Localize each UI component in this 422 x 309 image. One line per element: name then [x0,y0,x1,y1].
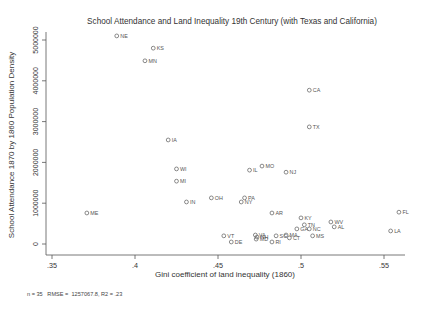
data-point-mn: MN [143,58,157,64]
point-label: IL [253,167,257,173]
marker-circle-icon [185,200,189,204]
marker-circle-icon [307,88,311,92]
point-label: AL [338,224,345,230]
point-label: NY [245,199,253,205]
marker-circle-icon [222,234,226,238]
data-point-tx: TX [307,124,320,130]
y-axis: 010000002000000300000040000005000000 [32,26,46,255]
data-point-ar: AR [270,210,283,216]
x-tick-label: .55 [379,261,389,270]
marker-circle-icon [143,59,147,63]
point-label: MN [148,58,156,64]
point-label: MS [316,233,324,239]
y-tick-label: 1000000 [32,189,39,216]
x-tick-label: .35 [47,261,57,270]
data-point-ks: KS [151,45,164,51]
data-point-ri: RI [270,239,281,245]
marker-circle-icon [270,240,274,244]
data-point-il: IL [248,167,258,173]
marker-circle-icon [307,125,311,129]
data-point-ms: MS [311,233,325,239]
point-label: CA [313,87,321,93]
data-point-me: ME [85,210,99,216]
marker-circle-icon [229,240,233,244]
data-point-wi: WI [175,166,187,172]
point-label: AR [275,210,283,216]
marker-circle-icon [270,211,274,215]
chart-title: School Attendance and Land Inequality 19… [87,17,377,26]
marker-circle-icon [175,167,179,171]
point-label: VT [227,233,235,239]
marker-circle-icon [274,234,278,238]
point-label: ME [90,210,98,216]
marker-circle-icon [115,34,119,38]
marker-circle-icon [284,170,288,174]
marker-circle-icon [85,211,89,215]
data-point-fl: FL [397,209,409,215]
point-label: LA [394,228,401,234]
marker-circle-icon [175,179,179,183]
point-label: TX [313,124,320,130]
data-point-ny: NY [239,199,252,205]
data-point-la: LA [389,228,401,234]
point-label: NE [120,33,128,39]
data-point-nj: NJ [284,169,296,175]
marker-circle-icon [332,225,336,229]
data-point-ga: GA [295,226,309,232]
point-label: WI [180,166,187,172]
point-label: NJ [290,169,297,175]
x-tick-label: .5 [298,261,304,270]
point-label: RI [275,239,280,245]
y-axis-label: School Attendance 1870 by 1860 Populatio… [7,52,16,238]
marker-circle-icon [329,220,333,224]
data-point-mo: MO [260,163,274,169]
data-point-ca: CA [307,87,320,93]
marker-circle-icon [389,229,393,233]
point-label: OH [215,195,223,201]
point-label: KS [157,45,165,51]
x-axis-label: Gini coefficient of land inequality (186… [155,270,295,279]
y-tick-label: 0 [32,242,39,246]
point-label: IA [172,137,177,143]
footnote: n = 35 RMSE = 1257067.8, R2 = .23 [27,291,122,297]
marker-circle-icon [311,234,315,238]
x-tick-label: .45 [213,261,223,270]
point-label: NC [313,226,321,232]
point-label: MD [260,236,268,242]
point-label: CT [293,235,301,241]
point-label: FL [402,209,408,215]
marker-circle-icon [260,164,264,168]
marker-circle-icon [166,138,170,142]
point-label: SC [280,233,288,239]
marker-circle-icon [295,227,299,231]
marker-circle-icon [209,196,213,200]
x-axis: .35.4.45.5.55 [46,255,405,270]
data-point-de: DE [229,239,242,245]
data-point-ia: IA [166,137,177,143]
point-label: MI [180,178,186,184]
data-point-oh: OH [209,195,223,201]
scatter-chart: School Attendance and Land Inequality 19… [0,0,422,309]
y-tick-label: 5000000 [32,26,39,53]
chart-canvas: School Attendance and Land Inequality 19… [0,0,422,309]
marker-circle-icon [239,200,243,204]
marker-circle-icon [151,46,155,50]
y-tick-label: 2000000 [32,149,39,176]
y-tick-label: 3000000 [32,108,39,135]
data-point-nc: NC [307,226,320,232]
data-point-in: IN [185,199,196,205]
data-point-ky: KY [299,215,312,221]
point-label: KY [305,215,313,221]
point-label: IN [190,199,195,205]
point-label: DE [235,239,243,245]
point-label: MO [265,163,274,169]
x-tick-label: .4 [132,261,138,270]
marker-circle-icon [397,210,401,214]
marker-circle-icon [248,168,252,172]
data-point-mi: MI [175,178,186,184]
data-point-vt: VT [222,233,235,239]
data-points: NEKSMNCATXIAWIMIMOILNJINOHPANYMEARKYTNGA… [85,33,409,245]
marker-circle-icon [299,216,303,220]
data-point-ne: NE [115,33,128,39]
data-point-al: AL [332,224,344,230]
